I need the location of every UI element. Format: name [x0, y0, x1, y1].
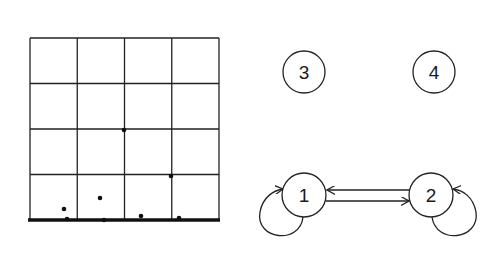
data-point — [98, 196, 103, 201]
node-3: 3 — [283, 51, 325, 93]
node-2: 2 — [409, 173, 453, 217]
node-4: 4 — [413, 51, 455, 93]
data-point — [65, 217, 70, 222]
node-label: 4 — [429, 62, 440, 83]
node-label: 1 — [299, 185, 310, 206]
node-label: 3 — [299, 62, 310, 83]
node-1: 1 — [282, 173, 326, 217]
figure: 3412 — [0, 0, 487, 253]
data-point — [122, 128, 127, 133]
grid-panel — [28, 38, 220, 222]
data-point — [62, 207, 67, 212]
data-point — [102, 218, 107, 223]
data-point — [139, 214, 144, 219]
graph-panel: 3412 — [260, 51, 477, 236]
data-point — [169, 174, 174, 179]
data-point — [177, 216, 182, 221]
node-label: 2 — [426, 185, 437, 206]
